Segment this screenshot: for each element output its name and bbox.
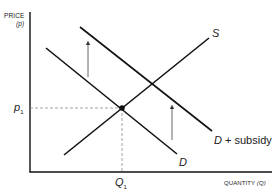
supply-label: S bbox=[212, 28, 219, 39]
price-p1-label: p1 bbox=[14, 102, 23, 115]
equilibrium-point bbox=[119, 105, 125, 111]
y-axis-symbol: (p) bbox=[16, 21, 24, 28]
x-axis-title: QUANTITY bbox=[224, 180, 255, 186]
demand-subsidy-curve bbox=[80, 27, 212, 131]
demand-label: D bbox=[179, 157, 187, 168]
x-axis-symbol: (Q) bbox=[257, 180, 266, 186]
y-axis-title: PRICE bbox=[4, 13, 24, 20]
demand-subsidy-label: D + subsidy bbox=[214, 135, 272, 146]
quantity-q1-label: Q1 bbox=[115, 177, 127, 190]
x-axis-title-group: QUANTITY (Q) bbox=[224, 180, 266, 186]
demand-curve bbox=[46, 48, 177, 154]
supply-demand-diagram bbox=[0, 0, 280, 192]
supply-curve bbox=[64, 38, 209, 155]
